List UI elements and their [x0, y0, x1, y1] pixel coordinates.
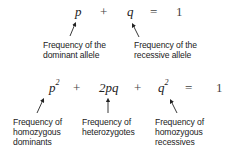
arrow-icon [171, 101, 177, 113]
arrows [0, 0, 230, 160]
arrow-icon [133, 25, 139, 37]
arrow-icon [37, 100, 43, 113]
arrow-icon [70, 24, 75, 36]
